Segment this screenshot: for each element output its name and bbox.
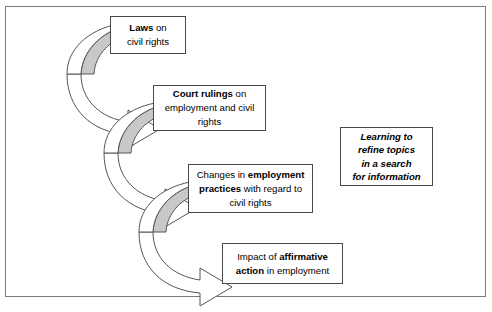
employment-practices-box-label: Changes in employmentpractices with rega… [197, 168, 305, 210]
court-rulings-box-label: Court rulings onemployment and civilrigh… [165, 87, 255, 129]
learning-callout-box-label: Learning torefine topicsin a searchfor i… [352, 130, 420, 184]
employment-practices-box: Changes in employmentpractices with rega… [188, 164, 313, 213]
court-rulings-box: Court rulings onemployment and civilrigh… [153, 85, 266, 131]
diagram-root: Laws oncivil rights Court rulings onempl… [0, 0, 492, 312]
affirmative-action-box: Impact of affirmativeaction in employmen… [222, 243, 343, 284]
laws-box: Laws oncivil rights [110, 16, 186, 54]
laws-box-label: Laws oncivil rights [127, 21, 169, 49]
learning-callout-box: Learning torefine topicsin a searchfor i… [340, 127, 433, 186]
affirmative-action-box-label: Impact of affirmativeaction in employmen… [236, 250, 329, 278]
